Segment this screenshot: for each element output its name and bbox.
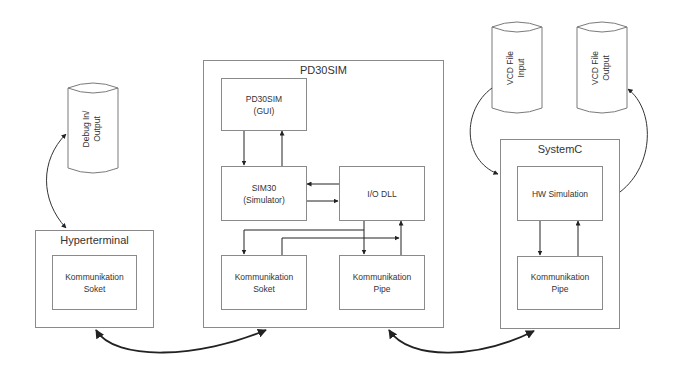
systemc-title: SystemC <box>501 143 619 155</box>
vcd-output-label-line2: Output <box>601 38 612 98</box>
pd30sim-title: PD30SIM <box>204 64 443 76</box>
hyperterminal-title: Hyperterminal <box>36 234 153 246</box>
hyperterminal-socket-line2: Soket <box>84 283 106 295</box>
debug-hyperterminal-arrow <box>47 134 67 228</box>
debug-cylinder: Debug In/ Output <box>81 99 105 159</box>
sim30-line2: (Simulator) <box>243 194 285 206</box>
debug-label-line1: Debug In/ <box>81 99 92 159</box>
pd30sim-socket-box: Kommunikation Soket <box>221 255 307 310</box>
systemc-pipe-line2: Pipe <box>551 283 568 295</box>
hyperterminal-socket-box: Kommunikation Soket <box>52 255 137 310</box>
systemc-pipe-line1: Kommunikation <box>531 271 590 283</box>
debug-label-line2: Output <box>92 99 103 159</box>
pd30sim-pipe-line2: Pipe <box>373 283 390 295</box>
systemc-pipe-box: Kommunikation Pipe <box>517 256 603 310</box>
pd30sim-pipe-box: Kommunikation Pipe <box>339 255 425 310</box>
io-dll-box: I/O DLL <box>339 166 425 221</box>
io-dll-label: I/O DLL <box>367 188 396 200</box>
sim30-line1: SIM30 <box>252 182 277 194</box>
vcd-input-label-line1: VCD File <box>505 38 516 98</box>
vcd-input-label-line2: Input <box>516 38 527 98</box>
hyperterminal-pd30sim-arrow <box>96 330 266 353</box>
pd30sim-systemc-arrow <box>389 330 534 353</box>
hw-simulation-box: HW Simulation <box>517 166 603 221</box>
pd30sim-socket-line2: Soket <box>253 283 275 295</box>
hyperterminal-socket-line1: Kommunikation <box>65 271 124 283</box>
pd30sim-gui-box: PD30SIM (GUI) <box>221 78 307 131</box>
pd30sim-pipe-line1: Kommunikation <box>353 271 412 283</box>
sim30-box: SIM30 (Simulator) <box>221 166 307 221</box>
vcd-input-systemc-arrow <box>470 88 498 174</box>
pd30sim-socket-line1: Kommunikation <box>235 271 294 283</box>
pd30sim-gui-line1: PD30SIM <box>246 93 282 105</box>
vcd-output-label-line1: VCD File <box>590 38 601 98</box>
systemc-vcd-output-arrow <box>620 89 647 192</box>
pd30sim-gui-line2: (GUI) <box>254 105 275 117</box>
hw-simulation-label: HW Simulation <box>532 188 588 200</box>
vcd-output-cylinder: VCD File Output <box>590 38 614 98</box>
vcd-input-cylinder: VCD File Input <box>505 38 529 98</box>
